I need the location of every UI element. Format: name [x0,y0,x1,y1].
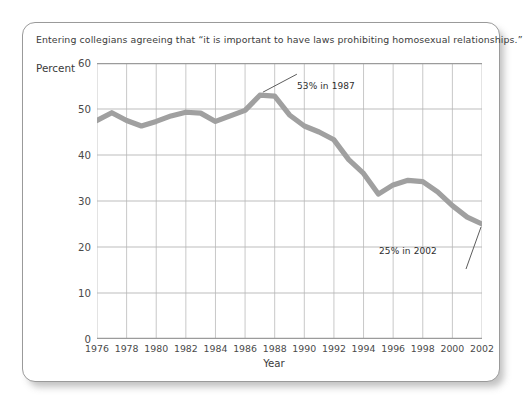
x-tick-label: 2002 [470,343,494,354]
chart-title: Entering collegians agreeing that “it is… [36,34,496,45]
y-tick-label: 40 [78,150,91,161]
x-tick-label: 1988 [263,343,287,354]
x-tick-label: 1982 [174,343,198,354]
horizontal-gridlines [97,109,482,293]
x-tick-label: 1980 [144,343,168,354]
annotation-peak: 53% in 1987 [297,81,355,91]
y-tick-label: 30 [78,196,91,207]
y-tick-label: 10 [78,288,91,299]
x-tick-label: 1978 [115,343,139,354]
annotation-end: 25% in 2002 [379,246,437,256]
x-tick-label: 1976 [85,343,109,354]
x-axis-title-text: Year [263,358,285,369]
y-tick-label: 50 [78,104,91,115]
x-tick-label: 2000 [440,343,464,354]
data-series-line [97,95,482,224]
x-tick-label: 1990 [292,343,316,354]
y-tick-label: 20 [78,242,91,253]
x-tick-label: 1986 [233,343,257,354]
annotation-leader-lines [263,74,481,269]
chart-figure: Entering collegians agreeing that “it is… [0,0,526,404]
y-axis-title: Percent [36,62,75,74]
x-tick-label: 1998 [411,343,435,354]
x-tick-label: 1994 [352,343,376,354]
plot-canvas [97,63,482,339]
x-axis-title: Year [0,358,526,369]
y-tick-label: 60 [78,58,91,69]
x-tick-label: 1984 [204,343,228,354]
x-tick-label: 1996 [381,343,405,354]
plot-area: 0102030405060 19761978198019821984198619… [97,63,482,339]
x-tick-label: 1992 [322,343,346,354]
